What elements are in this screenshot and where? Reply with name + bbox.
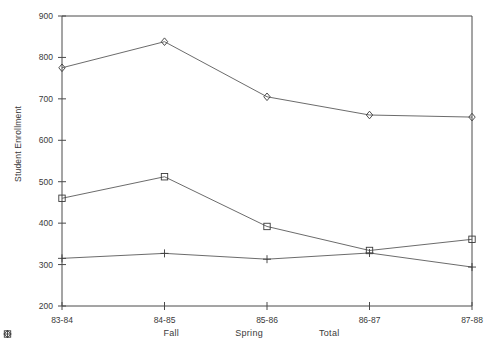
y-axis-labels: 200300400500600700800900: [39, 11, 53, 311]
series-spring: [58, 249, 476, 271]
legend-item-fall: Fall: [153, 328, 179, 338]
y-tick-label: 800: [39, 52, 53, 62]
y-tick-label: 200: [39, 301, 53, 311]
chart-legend: FallSpringTotal: [0, 328, 493, 338]
legend-label: Total: [319, 328, 340, 338]
series-total: [59, 38, 475, 121]
x-axis-labels: 83-8484-8585-8686-8787-88: [51, 315, 483, 325]
data-series: [58, 38, 476, 271]
x-tick-label: 85-86: [256, 315, 278, 325]
legend-item-spring: Spring: [225, 328, 263, 338]
legend-label: Fall: [163, 328, 179, 338]
series-fall: [59, 174, 475, 254]
y-tick-label: 900: [39, 11, 53, 21]
line-chart-plot: 200300400500600700800900 83-8484-8585-86…: [0, 0, 493, 357]
legend-label: Spring: [235, 328, 263, 338]
y-tick-label: 300: [39, 260, 53, 270]
x-tick-label: 86-87: [359, 315, 381, 325]
y-tick-label: 500: [39, 177, 53, 187]
legend-item-total: Total: [309, 328, 340, 338]
y-tick-label: 700: [39, 94, 53, 104]
chart-container: Student Enrollment 200300400500600700800…: [0, 0, 493, 357]
y-tick-label: 400: [39, 218, 53, 228]
x-tick-label: 84-85: [154, 315, 176, 325]
x-tick-label: 87-88: [461, 315, 483, 325]
y-tick-label: 600: [39, 135, 53, 145]
x-tick-label: 83-84: [51, 315, 73, 325]
diamond-marker-icon: [0, 328, 15, 340]
